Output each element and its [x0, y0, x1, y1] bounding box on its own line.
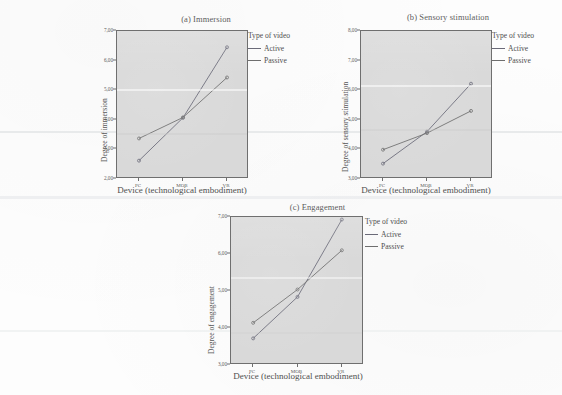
y-tick-label: 7,00 [218, 213, 227, 219]
legend: Type of video Active Passive [365, 216, 407, 252]
y-tick-label: 8,00 [348, 27, 357, 33]
legend-item-passive: Passive [492, 55, 534, 67]
y-tick-mark [113, 30, 116, 31]
legend-line-icon [248, 48, 261, 49]
y-tick-label: 3,00 [218, 361, 227, 367]
y-tick-mark [113, 178, 116, 179]
legend-title: Type of video [492, 30, 534, 42]
series-line-active [383, 84, 471, 164]
legend-label: Passive [381, 241, 404, 253]
legend-line-icon [365, 234, 378, 235]
legend-line-icon [365, 246, 378, 247]
panel-title: (c) Engagement [205, 202, 430, 212]
data-point-marker [252, 321, 255, 324]
y-axis-title: Degree of sensory stimulation [341, 82, 350, 172]
x-tick-mark [226, 178, 227, 181]
chart-panel-engagement: (c) Engagement Degree of engagement 7,00… [205, 202, 430, 392]
x-tick-mark [470, 178, 471, 181]
y-tick-label: 2,00 [104, 175, 113, 181]
legend-item-passive: Passive [248, 55, 290, 67]
series-lines [117, 31, 248, 178]
series-line-passive [253, 250, 342, 323]
y-tick-label: 6,00 [218, 250, 227, 256]
y-tick-label: 6,00 [104, 57, 113, 63]
data-point-marker [340, 218, 343, 221]
y-tick-label: 3,00 [348, 175, 357, 181]
y-tick-mark [113, 59, 116, 60]
x-tick-mark [138, 178, 139, 181]
series-lines [361, 31, 492, 178]
y-tick-label: 7,00 [104, 27, 113, 33]
legend-title: Type of video [248, 30, 290, 42]
y-tick-mark [227, 364, 230, 365]
legend-title: Type of video [365, 216, 407, 228]
legend-label: Active [381, 229, 401, 241]
data-point-marker [226, 46, 229, 49]
y-tick-mark [357, 89, 360, 90]
y-tick-label: 5,00 [348, 116, 357, 122]
y-tick-mark [357, 118, 360, 119]
y-tick-label: 5,00 [218, 287, 227, 293]
legend-item-passive: Passive [365, 241, 407, 253]
legend-item-active: Active [365, 229, 407, 241]
y-tick-mark [113, 89, 116, 90]
x-tick-mark [426, 178, 427, 181]
legend-line-icon [492, 48, 505, 49]
y-tick-label: 3,00 [104, 145, 113, 151]
series-lines [231, 217, 363, 364]
y-tick-label: 5,00 [104, 86, 113, 92]
x-tick-mark [182, 178, 183, 181]
series-line-active [253, 220, 342, 339]
legend-label: Passive [264, 55, 287, 67]
y-tick-label: 4,00 [348, 145, 357, 151]
legend-line-icon [492, 60, 505, 61]
x-axis-title: Device (technological embodiment) [102, 185, 262, 195]
series-line-active [139, 47, 227, 160]
x-axis-title: Device (technological embodiment) [346, 185, 506, 195]
y-tick-label: 4,00 [104, 116, 113, 122]
plot-area [230, 216, 363, 364]
legend-label: Active [508, 43, 528, 55]
legend-label: Passive [508, 55, 531, 67]
y-tick-mark [357, 59, 360, 60]
legend-label: Active [264, 43, 284, 55]
y-axis-title: Degree of engagement [207, 286, 216, 354]
panel-title: (a) Immersion [96, 14, 316, 24]
x-tick-mark [341, 364, 342, 367]
x-axis-title: Device (technological embodiment) [213, 371, 383, 381]
x-tick-mark [297, 364, 298, 367]
scan-artifact-streak [0, 196, 562, 199]
y-tick-label: 6,00 [348, 86, 357, 92]
legend: Type of video Active Passive [248, 30, 290, 66]
plot-area [360, 30, 492, 178]
y-tick-mark [227, 216, 230, 217]
chart-panel-sensory-stimulation: (b) Sensory stimulation Degree of sensor… [338, 12, 558, 196]
y-tick-mark [113, 148, 116, 149]
chart-panel-immersion: (a) Immersion Degree of immersion 7,006,… [96, 14, 316, 196]
y-tick-mark [357, 148, 360, 149]
x-tick-mark [252, 364, 253, 367]
y-axis-title: Degree of immersion [100, 98, 109, 162]
y-tick-mark [357, 178, 360, 179]
legend: Type of video Active Passive [492, 30, 534, 66]
legend-item-active: Active [492, 43, 534, 55]
panel-title: (b) Sensory stimulation [338, 12, 558, 22]
legend-item-active: Active [248, 43, 290, 55]
legend-line-icon [248, 60, 261, 61]
series-line-passive [139, 77, 227, 138]
data-point-marker [340, 249, 343, 252]
y-tick-mark [357, 30, 360, 31]
y-tick-mark [113, 118, 116, 119]
plot-area [116, 30, 248, 178]
y-tick-mark [227, 290, 230, 291]
y-tick-mark [227, 327, 230, 328]
x-tick-mark [382, 178, 383, 181]
y-tick-label: 4,00 [218, 324, 227, 330]
y-tick-label: 7,00 [348, 57, 357, 63]
y-tick-mark [227, 253, 230, 254]
